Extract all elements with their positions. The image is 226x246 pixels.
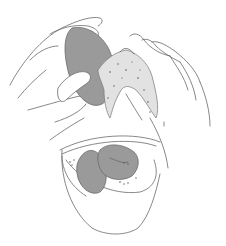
bowl-sponge-right [98, 145, 138, 180]
soap-foam [98, 50, 158, 118]
arm-line [50, 118, 84, 140]
cleaning-illustration [0, 0, 226, 246]
illustration [0, 0, 226, 246]
arm-line [150, 118, 168, 168]
